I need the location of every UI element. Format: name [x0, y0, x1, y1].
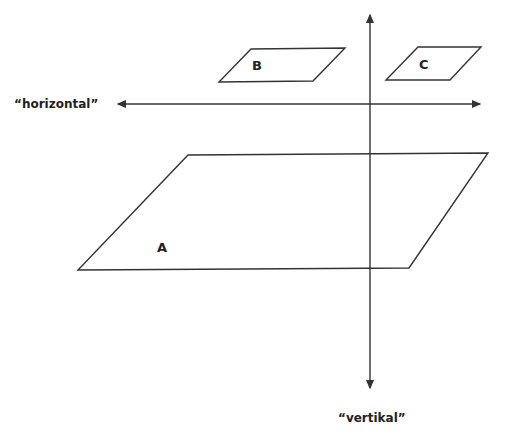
plane-b — [219, 48, 345, 82]
plane-b-label: B — [252, 58, 262, 73]
horizontal-axis-label: “horizontal” — [14, 97, 98, 111]
diagram-canvas: A B C “horizontal” “vertikal” — [0, 0, 505, 445]
plane-c-label: C — [419, 57, 429, 72]
plane-a — [78, 153, 488, 270]
vertical-axis-label: “vertikal” — [338, 411, 406, 425]
plane-c — [386, 47, 481, 80]
plane-a-label: A — [157, 240, 167, 255]
